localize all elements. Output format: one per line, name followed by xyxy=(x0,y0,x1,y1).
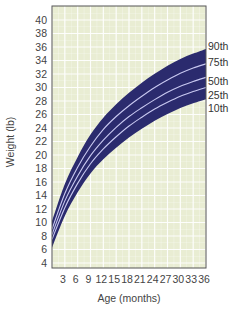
x-tick-label: 30 xyxy=(172,273,184,285)
y-tick-label: 12 xyxy=(35,203,47,215)
y-tick-label: 20 xyxy=(35,149,47,161)
y-tick-label: 14 xyxy=(35,189,47,201)
y-tick-label: 36 xyxy=(35,41,47,53)
x-tick-label: 12 xyxy=(95,273,107,285)
x-tick-label: 21 xyxy=(134,273,146,285)
x-tick-label: 3 xyxy=(60,273,66,285)
x-tick-label: 15 xyxy=(108,273,120,285)
percentile-label-10th: 10th xyxy=(208,102,229,114)
y-axis-title: Weight (lb) xyxy=(4,117,16,168)
percentile-label-75th: 75th xyxy=(208,56,229,68)
y-tick-label: 28 xyxy=(35,95,47,107)
y-tick-label: 22 xyxy=(35,135,47,147)
y-tick-label: 10 xyxy=(35,216,47,228)
y-tick-label: 24 xyxy=(35,122,47,134)
y-axis-ticks: 46810121416182022242628303234363840 xyxy=(35,14,47,269)
percentile-label-25th: 25th xyxy=(208,89,229,101)
x-axis-ticks: 369121518212427303336 xyxy=(60,273,210,285)
y-tick-label: 26 xyxy=(35,108,47,120)
x-tick-label: 6 xyxy=(73,273,79,285)
y-tick-label: 38 xyxy=(35,27,47,39)
y-tick-label: 18 xyxy=(35,162,47,174)
growth-chart: 46810121416182022242628303234363840 3691… xyxy=(0,0,233,314)
x-tick-label: 27 xyxy=(160,273,172,285)
y-tick-label: 40 xyxy=(35,14,47,26)
percentile-labels: 90th75th50th25th10th xyxy=(208,40,229,114)
y-tick-label: 30 xyxy=(35,81,47,93)
x-tick-label: 9 xyxy=(86,273,92,285)
x-tick-label: 24 xyxy=(147,273,159,285)
x-axis-title: Age (months) xyxy=(97,292,160,304)
y-tick-label: 6 xyxy=(41,243,47,255)
y-tick-label: 4 xyxy=(41,257,47,269)
x-tick-label: 36 xyxy=(198,273,210,285)
y-tick-label: 34 xyxy=(35,54,47,66)
y-tick-label: 16 xyxy=(35,176,47,188)
y-tick-label: 32 xyxy=(35,68,47,80)
percentile-label-50th: 50th xyxy=(208,75,229,87)
x-tick-label: 33 xyxy=(185,273,197,285)
x-tick-label: 18 xyxy=(121,273,133,285)
percentile-label-90th: 90th xyxy=(208,40,229,52)
y-tick-label: 8 xyxy=(41,230,47,242)
